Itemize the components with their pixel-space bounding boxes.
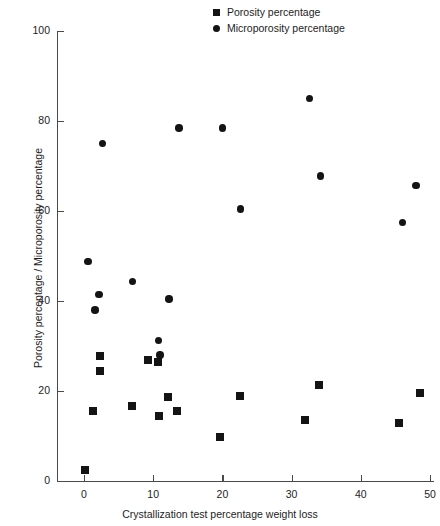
legend-label-porosity: Porosity percentage xyxy=(227,5,320,20)
data-point-microporosity xyxy=(237,205,245,213)
data-point-microporosity xyxy=(156,351,164,359)
x-axis-tick xyxy=(153,475,154,481)
data-point-porosity xyxy=(154,358,162,366)
data-point-microporosity xyxy=(412,182,420,190)
data-point-porosity xyxy=(315,381,323,389)
data-point-porosity xyxy=(301,416,309,424)
data-point-porosity xyxy=(155,412,163,420)
x-axis-tick-label: 20 xyxy=(209,488,235,500)
data-point-microporosity xyxy=(399,219,407,227)
x-axis-tick xyxy=(430,475,431,481)
y-axis-line xyxy=(57,31,58,481)
legend-label-microporosity: Microporosity percentage xyxy=(227,21,345,36)
x-axis-tick xyxy=(222,475,223,481)
y-axis-tick-label: 0 xyxy=(24,474,50,486)
data-point-microporosity xyxy=(129,278,137,286)
scatter-plot-figure: Porosity percentage Microporosity percen… xyxy=(0,0,440,526)
data-point-microporosity xyxy=(91,306,99,314)
y-axis-tick-label: 60 xyxy=(24,204,50,216)
data-point-microporosity xyxy=(175,124,183,132)
data-point-microporosity xyxy=(95,291,103,299)
y-axis-tick xyxy=(58,301,64,302)
y-axis-tick-label: 40 xyxy=(24,294,50,306)
data-point-porosity xyxy=(128,402,136,410)
data-point-porosity xyxy=(144,356,152,364)
data-point-microporosity xyxy=(306,95,314,103)
data-point-microporosity xyxy=(317,172,325,180)
y-axis-tick-label: 20 xyxy=(24,384,50,396)
y-axis-tick xyxy=(58,31,64,32)
x-axis-tick xyxy=(84,475,85,481)
legend-item-porosity: Porosity percentage xyxy=(213,4,345,20)
x-axis-tick-label: 50 xyxy=(417,488,440,500)
data-point-porosity xyxy=(173,407,181,415)
data-point-microporosity xyxy=(155,337,163,345)
data-point-porosity xyxy=(216,433,224,441)
y-axis-tick xyxy=(58,391,64,392)
circle-marker-icon xyxy=(213,25,220,32)
data-point-porosity xyxy=(164,393,172,401)
legend-item-microporosity: Microporosity percentage xyxy=(213,20,345,36)
y-axis-tick-label: 100 xyxy=(24,24,50,36)
data-point-microporosity xyxy=(165,295,173,303)
y-axis-title: Porosity percentage / Microporosity perc… xyxy=(32,128,44,388)
data-point-porosity xyxy=(96,352,104,360)
y-axis-tick xyxy=(58,121,64,122)
data-point-porosity xyxy=(416,389,424,397)
data-point-porosity xyxy=(96,367,104,375)
x-axis-tick xyxy=(361,475,362,481)
x-axis-line xyxy=(57,481,434,482)
chart-legend: Porosity percentage Microporosity percen… xyxy=(213,4,345,36)
data-point-porosity xyxy=(236,392,244,400)
data-point-porosity xyxy=(395,419,403,427)
data-point-porosity xyxy=(81,466,89,474)
data-point-microporosity xyxy=(84,258,92,266)
data-point-porosity xyxy=(89,407,97,415)
data-point-microporosity xyxy=(99,140,107,148)
y-axis-tick xyxy=(58,211,64,212)
data-point-microporosity xyxy=(219,124,227,132)
x-axis-tick-label: 40 xyxy=(348,488,374,500)
y-axis-tick-label: 80 xyxy=(24,114,50,126)
x-axis-tick xyxy=(292,475,293,481)
x-axis-tick-label: 30 xyxy=(279,488,305,500)
x-axis-title: Crystallization test percentage weight l… xyxy=(0,508,440,520)
x-axis-tick-label: 0 xyxy=(71,488,97,500)
square-marker-icon xyxy=(213,9,220,16)
y-axis-tick xyxy=(58,481,64,482)
x-axis-tick-label: 10 xyxy=(140,488,166,500)
